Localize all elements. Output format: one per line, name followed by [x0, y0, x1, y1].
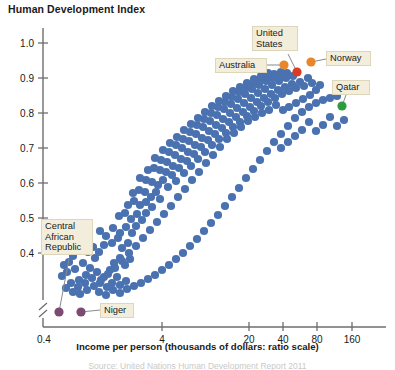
- data-point: [153, 218, 161, 226]
- data-point: [174, 193, 182, 201]
- data-point: [284, 122, 292, 130]
- data-point: [272, 101, 280, 109]
- data-point: [130, 282, 138, 290]
- data-point: [284, 138, 292, 146]
- data-point: [159, 146, 167, 154]
- data-point: [122, 223, 130, 231]
- data-point: [277, 144, 285, 152]
- data-point: [208, 141, 216, 149]
- data-point: [95, 248, 103, 256]
- highlighted-point-norway: [306, 57, 315, 66]
- data-point: [195, 168, 203, 176]
- data-point: [237, 123, 245, 131]
- data-point: [186, 242, 194, 250]
- highlighted-point-central-african-republic: [54, 307, 63, 316]
- y-axis-tick-label: 0.4: [20, 248, 34, 259]
- data-point: [251, 113, 259, 121]
- data-point: [116, 229, 124, 237]
- data-point: [258, 109, 266, 117]
- data-point: [132, 242, 140, 250]
- data-point: [158, 266, 166, 274]
- y-axis-tick-label: 1.0: [20, 38, 34, 49]
- data-point: [312, 99, 320, 107]
- data-point: [236, 83, 244, 91]
- data-point: [271, 94, 279, 102]
- data-point: [109, 286, 117, 294]
- y-axis-tick-label: 0.9: [20, 73, 34, 84]
- callout-norway: Norway: [326, 51, 371, 66]
- data-point: [181, 185, 189, 193]
- data-point: [138, 216, 146, 224]
- data-point: [74, 283, 82, 291]
- data-point: [201, 148, 209, 156]
- data-point: [194, 155, 202, 163]
- data-point: [250, 75, 258, 83]
- data-point: [151, 271, 159, 279]
- data-point: [291, 132, 299, 140]
- data-point: [116, 289, 124, 297]
- data-point: [340, 116, 348, 124]
- y-axis-tick-label: 0.5: [20, 213, 34, 224]
- data-point: [292, 99, 300, 107]
- data-point: [128, 229, 136, 237]
- data-point: [207, 219, 215, 227]
- data-point: [166, 139, 174, 147]
- data-point: [229, 87, 237, 95]
- data-point: [111, 264, 119, 272]
- data-point: [160, 210, 168, 218]
- highlighted-point-australia: [279, 60, 288, 69]
- data-point: [88, 274, 96, 282]
- data-point: [129, 189, 137, 197]
- data-point: [193, 235, 201, 243]
- data-point: [214, 211, 222, 219]
- data-point: [180, 126, 188, 134]
- data-point: [159, 176, 167, 184]
- data-point: [208, 102, 216, 110]
- data-point: [144, 275, 152, 283]
- data-point: [137, 279, 145, 287]
- data-point: [200, 227, 208, 235]
- data-point: [326, 113, 334, 121]
- x-axis-title: Income per person (thousands of dollars:…: [0, 341, 395, 352]
- callout-qatar: Qatar: [332, 80, 370, 95]
- data-point: [132, 222, 140, 230]
- data-point: [108, 239, 116, 247]
- data-point: [244, 117, 252, 125]
- data-point: [277, 130, 285, 138]
- data-point: [243, 79, 251, 87]
- data-point: [256, 156, 264, 164]
- data-point: [215, 135, 223, 143]
- data-point: [125, 249, 133, 257]
- data-point: [194, 114, 202, 122]
- data-point: [173, 133, 181, 141]
- data-point: [86, 264, 94, 272]
- data-point: [209, 151, 217, 159]
- data-point: [319, 121, 327, 129]
- callout-australia: Australia: [215, 58, 267, 73]
- data-point: [223, 135, 231, 143]
- data-point: [148, 203, 156, 211]
- data-point: [187, 120, 195, 128]
- data-point: [122, 277, 130, 285]
- callout-leader-lines: [59, 54, 346, 312]
- data-point: [257, 72, 265, 80]
- data-point: [215, 97, 223, 105]
- data-point: [257, 102, 265, 110]
- source-note: Source: United Nations Human Development…: [0, 361, 395, 370]
- data-point: [222, 92, 230, 100]
- callout-central-african-republic: Central African Republic: [41, 219, 93, 255]
- data-point: [165, 261, 173, 269]
- data-point: [187, 162, 195, 170]
- data-point: [142, 209, 150, 217]
- data-point: [300, 82, 308, 90]
- data-point: [67, 279, 75, 287]
- data-point: [326, 94, 334, 102]
- data-point: [298, 108, 306, 116]
- data-point: [201, 108, 209, 116]
- data-point: [156, 195, 164, 203]
- data-point: [76, 290, 84, 298]
- data-point: [152, 188, 160, 196]
- data-point: [172, 177, 180, 185]
- data-point: [305, 103, 313, 111]
- data-point: [308, 79, 316, 87]
